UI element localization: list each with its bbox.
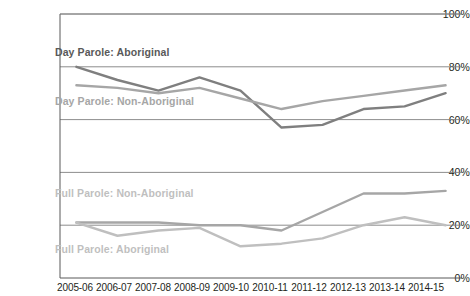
x-tick-2007-08: 2007-08 bbox=[135, 282, 171, 293]
x-tick-2011-12: 2011-12 bbox=[291, 282, 326, 293]
x-tick-2008-09: 2008-09 bbox=[174, 282, 210, 293]
x-tick-2012-13: 2012-13 bbox=[330, 282, 366, 293]
x-tick-2006-07: 2006-07 bbox=[96, 282, 132, 293]
series-label-day-parole-aboriginal: Day Parole: Aboriginal bbox=[55, 46, 169, 58]
x-tick-2013-14: 2013-14 bbox=[369, 282, 405, 293]
series-label-day-parole-non-aboriginal: Day Parole: Non-Aboriginal bbox=[55, 95, 194, 107]
x-tick-2005-06: 2005-06 bbox=[57, 282, 93, 293]
x-tick-2009-10: 2009-10 bbox=[213, 282, 249, 293]
series-label-full-parole-aboriginal: Full Parole: Aboriginal bbox=[55, 243, 169, 255]
series-label-full-parole-non-aboriginal: Full Parole: Non-Aboriginal bbox=[55, 187, 194, 199]
x-tick-2010-11: 2010-11 bbox=[252, 282, 287, 293]
parole-grant-rate-chart: 100% 80% 60% 40% 20% 0% Day Parole: Abor… bbox=[0, 0, 470, 296]
x-tick-2014-15: 2014-15 bbox=[408, 282, 444, 293]
